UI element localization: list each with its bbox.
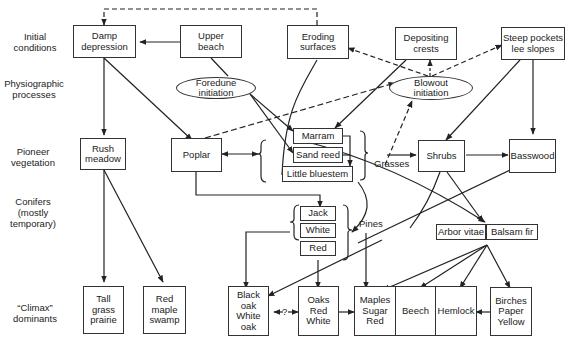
row-label-conifers: Conifers (mostly temporary): [2, 196, 64, 229]
dashed-eroding-to-damp: [104, 9, 317, 25]
row-label-pioneer-vegetation: Pioneer vegetation: [2, 146, 64, 168]
label-grasses: Grasses: [374, 158, 409, 169]
node-rush-meadow: Rush meadow: [80, 138, 126, 170]
row-label-physiographic-processes: Physiographic processes: [0, 78, 68, 100]
row-label-climax-dominants: “Climax” dominants: [4, 302, 66, 324]
node-black-white-oak: Black oak White oak: [228, 286, 269, 336]
node-eroding-surfaces: Eroding surfaces: [287, 25, 349, 59]
node-sand-reed: Sand reed: [293, 147, 343, 163]
node-red-pine: Red: [300, 241, 336, 256]
node-birches-paper-yellow: Birches Paper Yellow: [490, 287, 532, 336]
node-steep-pockets-lee-slopes: Steep pockets lee slopes: [501, 27, 565, 60]
label-uncertain-link: ?: [282, 306, 287, 317]
node-depositing-crests: Depositing crests: [395, 27, 457, 60]
row-label-initial-conditions: Initial conditions: [4, 31, 66, 53]
pine-left-brace: [290, 205, 299, 240]
node-balsam-fir: Balsam fir: [486, 224, 538, 240]
node-beech: Beech: [395, 286, 436, 336]
grass-left-brace: [258, 140, 266, 182]
node-hemlock: Hemlock: [435, 286, 477, 336]
node-blowout-initiation: Blowout initiation: [389, 76, 473, 100]
node-tall-grass-prairie: Tall grass prairie: [83, 286, 124, 334]
node-jack-pine: Jack: [300, 206, 336, 221]
node-shrubs: Shrubs: [418, 140, 465, 172]
node-upper-beach: Upper beach: [180, 25, 242, 58]
node-damp-depression: Damp depression: [73, 25, 136, 58]
node-basswood: Basswood: [509, 139, 556, 173]
label-pines: Pines: [359, 218, 383, 229]
grass-right-brace: [360, 131, 368, 180]
node-poplar: Poplar: [171, 138, 222, 172]
node-little-bluestem: Little bluestem: [282, 166, 353, 182]
node-red-maple-swamp: Red maple swamp: [143, 286, 186, 334]
node-oaks-red-white: Oaks Red White: [298, 286, 339, 336]
node-arbor-vitae: Arbor vitae: [436, 224, 486, 240]
node-marram: Marram: [293, 128, 343, 144]
pine-right-brace: [343, 205, 352, 260]
node-foredune-initiation: Foredune initiation: [176, 77, 256, 99]
node-maples-sugar-red: Maples Sugar Red: [354, 286, 396, 336]
node-white-pine: White: [300, 223, 336, 238]
